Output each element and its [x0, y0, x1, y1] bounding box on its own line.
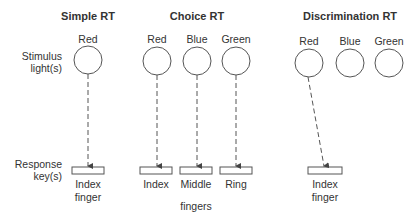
resp-label-index-simple: Index	[75, 178, 101, 190]
response-key-ring-choice	[220, 167, 252, 174]
stimulus-light-green-disc	[375, 49, 403, 77]
stimulus-light-green-choice	[222, 47, 250, 75]
response-key-index-disc	[308, 167, 342, 174]
stim-label-blue-disc: Blue	[339, 35, 360, 47]
stimulus-light-red-choice	[143, 47, 171, 75]
resp-label-finger-disc: finger	[312, 191, 338, 203]
resp-label-fingers-choice: fingers	[180, 200, 212, 212]
stim-label-green-choice: Green	[221, 33, 250, 45]
response-key-middle-choice	[180, 167, 212, 174]
title-discrimination-rt: Discrimination RT	[303, 10, 397, 22]
resp-label-middle-choice: Middle	[181, 178, 212, 190]
stim-label-blue-choice: Blue	[186, 33, 207, 45]
arrow-disc-red	[308, 77, 324, 166]
row-label-response: Response	[15, 158, 62, 170]
stimulus-light-red-disc	[295, 49, 323, 77]
stim-label-red-simple: Red	[78, 33, 97, 45]
resp-label-index-choice: Index	[143, 178, 169, 190]
response-key-index-choice	[140, 167, 172, 174]
title-simple-rt: Simple RT	[61, 10, 115, 22]
stim-label-red-disc: Red	[299, 35, 318, 47]
response-key-index-simple	[72, 167, 104, 174]
row-label-stimulus: Stimulus	[22, 50, 62, 62]
stimulus-light-blue-disc	[336, 49, 364, 77]
resp-label-index-disc: Index	[312, 178, 338, 190]
row-label-stimulus-2: light(s)	[30, 62, 62, 74]
stimulus-light-blue-choice	[183, 47, 211, 75]
stimulus-light-red-simple	[74, 46, 102, 74]
stim-label-red-choice: Red	[147, 33, 166, 45]
resp-label-ring-choice: Ring	[225, 178, 247, 190]
title-choice-rt: Choice RT	[170, 10, 224, 22]
stim-label-green-disc: Green	[374, 35, 403, 47]
row-label-response-2: key(s)	[33, 170, 62, 182]
resp-label-finger-simple: finger	[75, 191, 101, 203]
